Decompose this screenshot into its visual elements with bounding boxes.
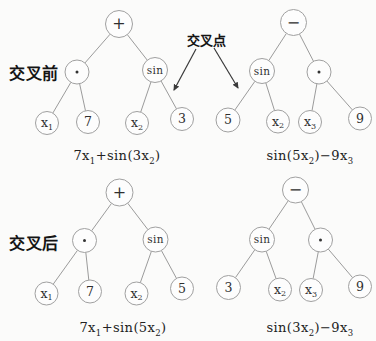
edge-after-right-dot-x3	[313, 252, 318, 279]
edge-after-left-dot-x1	[53, 250, 77, 284]
edge-after-left-sin-x2	[140, 251, 151, 282]
edge-after-left-plus-dot	[92, 203, 112, 230]
node-label-before-left-n3: 3	[178, 111, 186, 126]
tree-before-left: +sinx17x23	[36, 11, 194, 135]
node-label-before-left-plus: +	[112, 14, 125, 33]
expression-trees-canvas: +sinx17x23−sin5x2x39+sinx17x25−sin3x2x39	[0, 0, 376, 341]
edge-before-left-plus-sin	[127, 35, 147, 61]
node-label-before-left-n7: 7	[84, 114, 92, 129]
node-label-after-right-dot-dot-icon	[319, 239, 322, 242]
formula-before-left: 7x1+sin(3x2)	[73, 148, 160, 163]
node-label-before-right-n5: 5	[224, 112, 232, 127]
formula-after-right: sin(3x2)−9x3	[266, 320, 353, 335]
crossover-figure: +sinx17x23−sin5x2x39+sinx17x25−sin3x2x39…	[0, 0, 376, 341]
node-label-before-right-minus: −	[287, 13, 300, 32]
formula-before-right: sin(5x2)−9x3	[266, 148, 353, 163]
node-label-before-left-dot-dot-icon	[76, 71, 79, 74]
edge-before-left-sin-n3	[161, 81, 177, 109]
edge-before-right-dot-n9	[327, 81, 353, 110]
edge-before-right-sin-x2	[266, 83, 275, 111]
tree-before-right: −sin5x2x39	[216, 10, 372, 134]
edge-after-left-plus-sin	[128, 203, 148, 229]
edge-before-left-dot-x1	[53, 82, 71, 113]
node-label-before-left-sin: sin	[147, 64, 163, 76]
node-label-after-right-n9: 9	[356, 279, 364, 294]
tree-after-right: −sin3x2x39	[217, 177, 372, 302]
edge-after-left-sin-n5	[161, 251, 176, 279]
edge-after-right-minus-sin	[269, 201, 288, 229]
edge-before-right-minus-dot	[300, 34, 314, 61]
node-label-after-right-minus: −	[289, 180, 302, 199]
node-label-before-right-sin: sin	[254, 65, 270, 77]
edge-before-right-minus-sin	[269, 33, 287, 60]
node-label-after-right-n3: 3	[225, 280, 233, 295]
edge-before-left-plus-dot	[85, 34, 110, 63]
edge-before-left-dot-n7	[80, 84, 86, 111]
node-label-after-right-sin: sin	[254, 233, 270, 245]
edge-before-right-sin-n5	[235, 81, 255, 110]
crossover-arrow-2	[214, 48, 238, 88]
edge-before-left-sin-x2	[141, 82, 151, 112]
node-label-before-right-dot-dot-icon	[318, 71, 321, 74]
edge-after-right-sin-n3	[235, 250, 254, 278]
node-label-after-left-n5: 5	[178, 281, 186, 296]
formula-after-left: 7x1+sin(5x2)	[79, 320, 166, 335]
edge-after-left-dot-n7	[86, 252, 89, 280]
node-label-after-left-sin: sin	[147, 233, 163, 245]
edge-before-right-dot-x3	[312, 84, 317, 111]
edge-after-right-dot-n9	[328, 249, 352, 278]
node-label-after-left-dot-dot-icon	[83, 239, 86, 242]
crossover-arrow-1	[174, 49, 196, 90]
edge-after-right-sin-x2	[266, 251, 276, 278]
label-after-crossover: 交叉后	[9, 230, 59, 254]
edge-after-right-minus-dot	[301, 202, 315, 230]
label-before-crossover: 交叉前	[9, 60, 59, 84]
label-crossover-point: 交叉点	[187, 30, 226, 49]
node-label-after-left-n7: 7	[86, 284, 94, 299]
node-label-after-left-plus: +	[113, 183, 126, 202]
node-label-before-right-n9: 9	[356, 111, 364, 126]
